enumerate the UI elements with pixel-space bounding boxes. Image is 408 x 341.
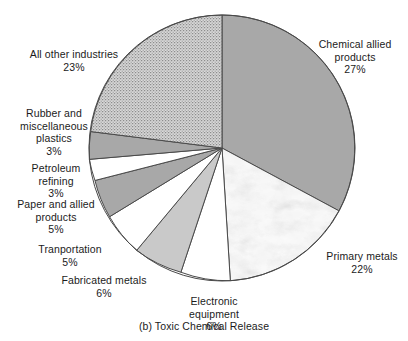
slice-label-percent: 27% [306, 63, 404, 75]
slice-label-text: Electronic equipment [189, 295, 239, 319]
slice-label-text: Primary metals [326, 250, 397, 262]
slice-label-fabricated-metals: Fabricated metals 6% [48, 262, 160, 312]
slice-label-chemical-allied-products: Chemical allied products 27% [306, 26, 404, 88]
slice-label-text: All other industries [30, 48, 118, 60]
slice-label-text: Petroleum refining [32, 162, 81, 186]
slice-label-text: Chemical allied products [319, 38, 392, 62]
pie-chart-figure: All other industries 23% Rubber and misc… [0, 0, 408, 341]
slice-label-all-other-industries: All other industries 23% [8, 36, 140, 86]
slice-label-text: Paper and allied products [17, 198, 95, 222]
slice-label-electronic-equipment: Electronic equipment 6% [166, 283, 262, 341]
figure-caption: (b) Toxic Chemical Release [0, 320, 408, 332]
slice-label-percent: 6% [48, 287, 160, 299]
slice-label-text: Tranportation [38, 243, 101, 255]
slice-label-text: Rubber and miscellaneous plastics [20, 107, 88, 144]
slice-label-primary-metals: Primary metals 22% [316, 238, 408, 288]
slice-label-percent: 23% [8, 61, 140, 73]
slice-label-text: Fabricated metals [61, 274, 146, 286]
slice-label-percent: 22% [316, 263, 408, 275]
